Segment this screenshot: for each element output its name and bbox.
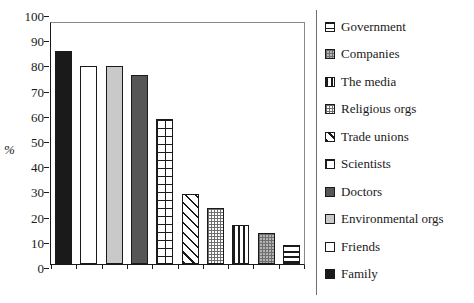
x-axis-tick-mark — [228, 265, 229, 269]
plot-area: % 1009080706050403020100 — [0, 0, 306, 303]
y-axis-tick-mark — [44, 92, 49, 93]
bar-friends[interactable] — [80, 66, 97, 264]
x-axis-tick-mark — [178, 265, 179, 269]
legend-swatch-icon — [325, 187, 335, 197]
y-axis-tick-mark — [44, 16, 49, 17]
legend-item-doctors[interactable]: Doctors — [325, 178, 471, 206]
bar-scientists[interactable] — [156, 119, 173, 264]
legend-item-religious-orgs[interactable]: Religious orgs — [325, 96, 471, 124]
y-axis-tick-label: 100 — [25, 10, 45, 23]
legend-item-label: Friends — [341, 240, 380, 254]
x-axis-tick-marks — [51, 265, 304, 270]
legend-item-label: Doctors — [341, 185, 382, 199]
y-axis-tick-mark — [44, 142, 49, 143]
y-axis-tick-mark — [44, 117, 49, 118]
x-axis-tick-mark — [127, 265, 128, 269]
x-axis-tick-mark — [279, 265, 280, 269]
legend-item-label: Government — [341, 20, 406, 34]
legend-divider — [316, 10, 317, 295]
y-axis-tick-label: 40 — [31, 161, 44, 174]
legend-item-label: Family — [341, 267, 378, 281]
x-axis-tick-mark — [51, 265, 52, 269]
legend-item-label: Trade unions — [341, 130, 409, 144]
legend-swatch-icon — [325, 104, 335, 114]
legend-item-friends[interactable]: Friends — [325, 233, 471, 261]
legend-swatch-icon — [325, 159, 335, 169]
y-axis-tick-label: 60 — [31, 110, 44, 123]
x-axis-tick-mark — [203, 265, 204, 269]
y-axis-tick-mark — [44, 192, 49, 193]
legend-swatch-icon — [325, 214, 335, 224]
x-axis-tick-mark — [152, 265, 153, 269]
legend-item-the-media[interactable]: The media — [325, 68, 471, 96]
y-axis-tick-labels: 1009080706050403020100 — [8, 16, 44, 268]
x-axis-tick-mark — [76, 265, 77, 269]
legend-item-label: Companies — [341, 47, 400, 61]
bar-religious-orgs[interactable] — [207, 208, 224, 264]
bar-environmental-orgs[interactable] — [106, 66, 123, 264]
legend-item-trade-unions[interactable]: Trade unions — [325, 123, 471, 151]
y-axis-tick-mark — [44, 41, 49, 42]
bar-family[interactable] — [55, 51, 72, 264]
y-axis-tick-label: 70 — [31, 85, 44, 98]
legend-item-scientists[interactable]: Scientists — [325, 151, 471, 179]
bar-companies[interactable] — [258, 233, 275, 264]
y-axis-tick-mark — [44, 218, 49, 219]
y-axis-tick-label: 30 — [31, 186, 44, 199]
x-axis-tick-mark — [304, 265, 305, 269]
bar-chart-figure: % 1009080706050403020100 GovernmentCompa… — [0, 0, 474, 303]
legend-swatch-icon — [325, 132, 335, 142]
bar-government[interactable] — [283, 245, 300, 264]
legend-swatch-icon — [325, 269, 335, 279]
y-axis-tick-label: 90 — [31, 35, 44, 48]
legend-swatch-icon — [325, 77, 335, 87]
legend-item-label: The media — [341, 75, 396, 89]
legend-item-family[interactable]: Family — [325, 261, 471, 289]
x-axis-tick-mark — [102, 265, 103, 269]
y-axis-tick-mark — [44, 268, 49, 269]
y-axis-tick-label: 80 — [31, 60, 44, 73]
y-axis-tick-label: 10 — [31, 236, 44, 249]
legend-item-companies[interactable]: Companies — [325, 41, 471, 69]
legend-item-environmental-orgs[interactable]: Environmental orgs — [325, 206, 471, 234]
y-axis-tick-mark — [44, 66, 49, 67]
legend-item-label: Religious orgs — [341, 102, 416, 116]
y-axis-tick-label: 20 — [31, 211, 44, 224]
legend-item-label: Scientists — [341, 157, 391, 171]
chart-legend: GovernmentCompaniesThe mediaReligious or… — [325, 13, 471, 288]
bars-container — [51, 22, 304, 264]
bar-doctors[interactable] — [131, 75, 148, 264]
y-axis-tick-mark — [44, 167, 49, 168]
y-axis-tick-mark — [44, 243, 49, 244]
x-axis-tick-mark — [253, 265, 254, 269]
legend-swatch-icon — [325, 242, 335, 252]
legend-swatch-icon — [325, 49, 335, 59]
legend-swatch-icon — [325, 22, 335, 32]
bar-trade-unions[interactable] — [182, 194, 199, 264]
legend-item-label: Environmental orgs — [341, 212, 444, 226]
legend-item-government[interactable]: Government — [325, 13, 471, 41]
y-axis-tick-label: 50 — [31, 136, 44, 149]
bar-the-media[interactable] — [232, 225, 249, 264]
